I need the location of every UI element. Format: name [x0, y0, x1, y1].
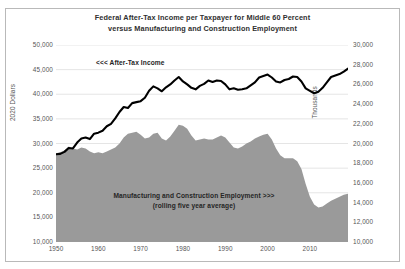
left-axis-tick-label: 35,000 [9, 115, 53, 122]
x-axis-tick-label: 1980 [163, 245, 203, 252]
x-axis-tick-label: 1970 [121, 245, 161, 252]
x-axis-tick-label: 1960 [78, 245, 118, 252]
annotation-employment: Manufacturing and Construction Employmen… [94, 191, 294, 211]
chart-title: Federal After-Tax Income per Taxpayer fo… [6, 13, 399, 34]
right-axis-tick-label: 28,000 [353, 61, 397, 68]
right-axis-tick-label: 26,000 [353, 80, 397, 87]
left-axis-tick-label: 10,000 [9, 238, 53, 245]
right-axis-tick-label: 30,000 [353, 41, 397, 48]
right-axis-tick-label: 12,000 [353, 218, 397, 225]
right-axis-tick-label: 18,000 [353, 159, 397, 166]
chart-frame: Federal After-Tax Income per Taxpayer fo… [5, 8, 400, 262]
left-axis-tick-label: 20,000 [9, 189, 53, 196]
chart-canvas [56, 45, 348, 242]
left-axis-title: 2020 Dollars [9, 63, 16, 143]
left-axis-tick-label: 25,000 [9, 164, 53, 171]
left-axis-tick-label: 45,000 [9, 66, 53, 73]
chart-title-line-1: Federal After-Tax Income per Taxpayer fo… [6, 13, 399, 24]
right-axis-tick-label: 22,000 [353, 120, 397, 127]
chart-title-line-2: versus Manufacturing and Construction Em… [6, 24, 399, 35]
left-axis-tick-label: 40,000 [9, 90, 53, 97]
employment-area-path [56, 125, 348, 242]
right-axis-tick-label: 16,000 [353, 179, 397, 186]
right-axis-tick-label: 14,000 [353, 199, 397, 206]
left-axis-tick-label: 30,000 [9, 140, 53, 147]
employment-area-series [56, 125, 348, 242]
x-axis-tick-label: 2010 [290, 245, 330, 252]
plot-area: 10,00015,00020,00025,00030,00035,00040,0… [56, 45, 348, 242]
right-axis-tick-label: 24,000 [353, 100, 397, 107]
x-axis-tick-label: 1990 [205, 245, 245, 252]
annotation-employment-subtext: (rolling five year average) [94, 201, 294, 211]
x-axis-tick-label: 2000 [248, 245, 288, 252]
right-axis-tick-label: 20,000 [353, 140, 397, 147]
annotation-after-tax-income: <<< After-Tax Income [96, 59, 165, 66]
annotation-after-tax-income-text: <<< After-Tax Income [96, 59, 165, 66]
right-axis-tick-label: 10,000 [353, 238, 397, 245]
annotation-employment-text: Manufacturing and Construction Employmen… [94, 191, 294, 201]
left-axis-tick-label: 50,000 [9, 41, 53, 48]
x-axis-tick-label: 1950 [36, 245, 76, 252]
left-axis-tick-label: 15,000 [9, 213, 53, 220]
